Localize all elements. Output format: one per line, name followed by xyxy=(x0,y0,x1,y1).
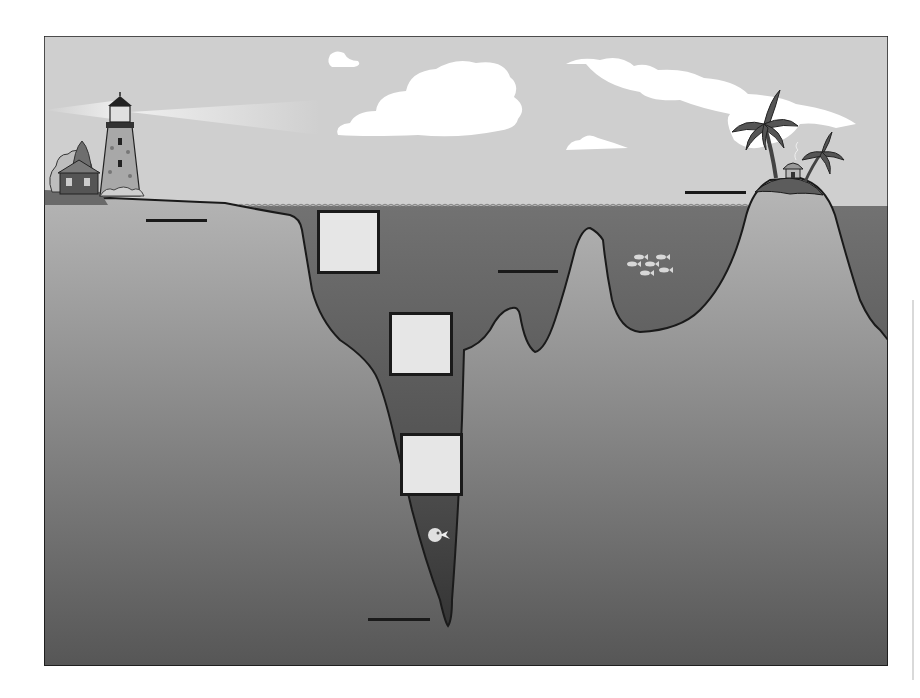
answer-box-2[interactable] xyxy=(389,312,453,376)
label-line-island[interactable] xyxy=(685,191,746,194)
label-line-trench[interactable] xyxy=(368,618,430,621)
answer-box-3[interactable] xyxy=(400,433,463,496)
label-line-continental-shelf[interactable] xyxy=(146,219,207,222)
page-edge-divider xyxy=(912,300,914,680)
label-line-seamount[interactable] xyxy=(498,270,558,273)
answer-box-1[interactable] xyxy=(317,210,380,274)
diagram-canvas xyxy=(0,0,920,698)
ocean-floor-diagram xyxy=(0,0,920,698)
